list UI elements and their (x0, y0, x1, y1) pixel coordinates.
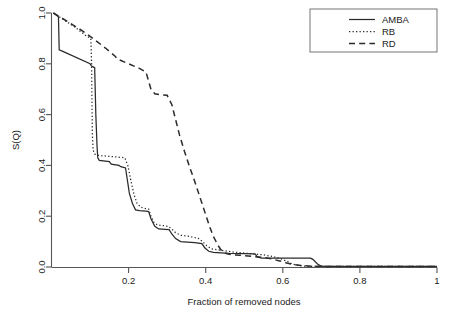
legend-label-rb: RB (382, 26, 395, 37)
y-tick-label: 0.2 (36, 210, 47, 223)
x-tick-label: 0.6 (276, 275, 289, 286)
y-tick-label: 0.6 (36, 108, 47, 121)
y-tick-label: 0.8 (36, 57, 47, 70)
y-axis-title: S(Q) (10, 130, 21, 150)
legend: AMBA RB RD (310, 9, 437, 52)
legend-label-rd: RD (382, 38, 396, 49)
y-tick-marks (46, 13, 52, 267)
legend-label-amba: AMBA (382, 14, 410, 25)
series-line-amba (53, 13, 437, 266)
x-tick-labels: 0.2 0.4 0.6 0.8 1 (122, 275, 440, 286)
x-axis-title: Fraction of removed nodes (187, 296, 300, 307)
x-tick-marks (129, 268, 437, 274)
data-series-group (53, 13, 437, 266)
y-tick-label: 0.0 (36, 260, 47, 273)
series-line-rb (53, 13, 437, 266)
plot-axes (52, 13, 438, 268)
series-line-rd (53, 13, 437, 266)
x-tick-label: 0.2 (122, 275, 135, 286)
legend-border (310, 9, 437, 52)
line-chart: 0.0 0.2 0.4 0.6 0.8 1.0 0.2 0.4 0.6 0.8 … (0, 0, 452, 314)
x-tick-label: 0.4 (199, 275, 212, 286)
y-tick-labels: 0.0 0.2 0.4 0.6 0.8 1.0 (36, 6, 47, 273)
x-tick-label: 0.8 (353, 275, 366, 286)
y-tick-label: 1.0 (36, 6, 47, 19)
y-tick-label: 0.4 (36, 159, 47, 172)
x-tick-label: 1 (434, 275, 439, 286)
